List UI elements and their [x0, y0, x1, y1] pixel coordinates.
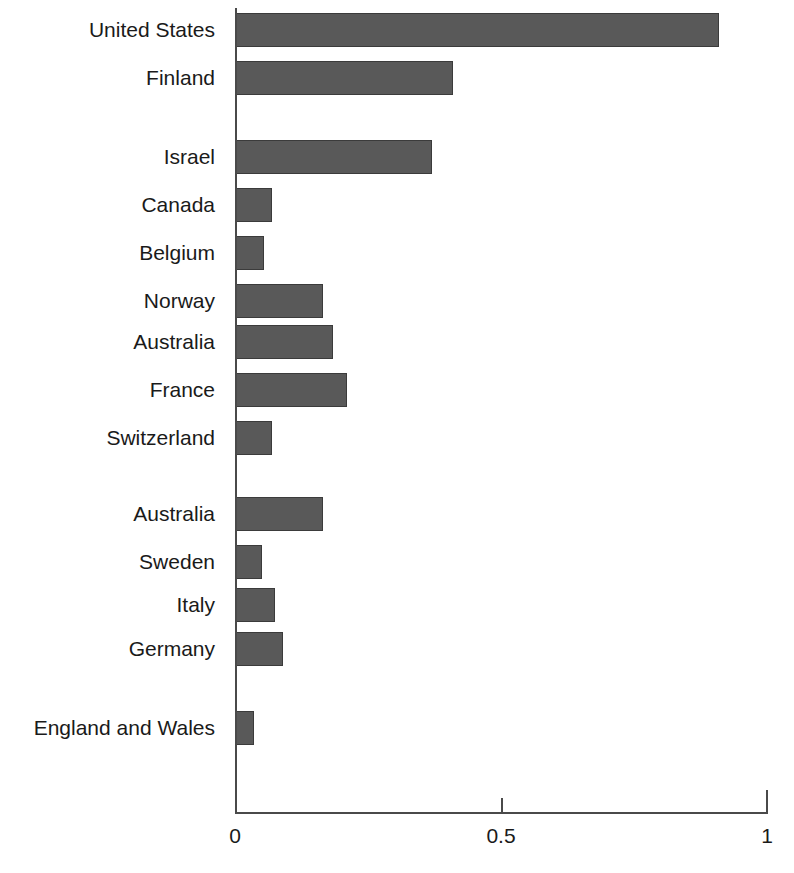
- category-label-norway: Norway: [0, 289, 215, 313]
- tick-label-0: 0: [229, 824, 241, 848]
- bar-norway: [235, 284, 323, 318]
- category-label-belgium: Belgium: [0, 241, 215, 265]
- bar-australia-lower: [235, 497, 323, 531]
- category-label-switzerland: Switzerland: [0, 426, 215, 450]
- tick-label-1: 1: [761, 824, 773, 848]
- category-label-france: France: [0, 378, 215, 402]
- tick-mark-0.5: [501, 798, 503, 812]
- bar-belgium: [235, 236, 264, 270]
- bar-united-states: [235, 13, 719, 47]
- value-axis-endcap: [766, 790, 768, 814]
- tick-label-0.5: 0.5: [486, 824, 515, 848]
- category-label-israel: Israel: [0, 145, 215, 169]
- bar-switzerland: [235, 421, 272, 455]
- category-label-sweden: Sweden: [0, 550, 215, 574]
- bar-germany: [235, 632, 283, 666]
- category-label-canada: Canada: [0, 193, 215, 217]
- bar-finland: [235, 61, 453, 95]
- bar-sweden: [235, 545, 262, 579]
- bar-england-and-wales: [235, 711, 254, 745]
- bar-canada: [235, 188, 272, 222]
- bar-israel: [235, 140, 432, 174]
- category-label-finland: Finland: [0, 66, 215, 90]
- bar-chart-figure: 0 0.5 1 United States Finland Israel Can…: [0, 0, 794, 873]
- bar-italy: [235, 588, 275, 622]
- value-axis-line: [235, 812, 768, 814]
- category-label-australia-lower: Australia: [0, 502, 215, 526]
- bar-australia-upper: [235, 325, 333, 359]
- category-label-germany: Germany: [0, 637, 215, 661]
- category-axis-line: [235, 8, 237, 813]
- category-label-united-states: United States: [0, 18, 215, 42]
- bar-france: [235, 373, 347, 407]
- category-label-italy: Italy: [0, 593, 215, 617]
- category-label-australia-upper: Australia: [0, 330, 215, 354]
- category-label-england-and-wales: England and Wales: [0, 716, 215, 740]
